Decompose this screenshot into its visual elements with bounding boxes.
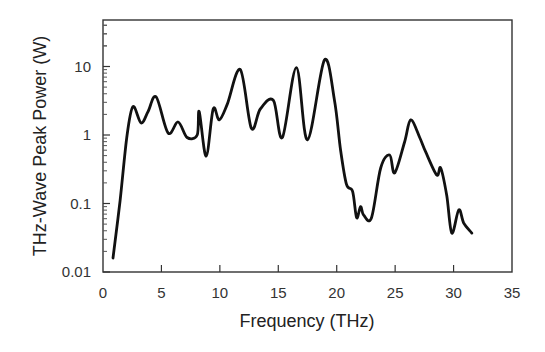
x-tick-label: 5 [157, 284, 165, 301]
plot-frame [103, 20, 512, 272]
x-tick-label: 20 [328, 284, 345, 301]
x-axis-title: Frequency (THz) [239, 311, 374, 331]
y-tick-label: 0.1 [70, 195, 91, 212]
x-axis-ticks: 05101520253035 [99, 265, 521, 301]
x-tick-label: 30 [445, 284, 462, 301]
x-tick-label: 10 [212, 284, 229, 301]
data-series [113, 59, 472, 258]
y-tick-label: 10 [74, 58, 91, 75]
y-tick-label: 1 [83, 126, 91, 143]
chart: 0.010.1110 05101520253035 Frequency (THz… [0, 0, 545, 352]
x-tick-label: 35 [504, 284, 521, 301]
y-axis-title: THz-Wave Peak Power (W) [30, 36, 50, 256]
x-tick-label: 0 [99, 284, 107, 301]
power-spectrum-line [113, 59, 472, 258]
plot-border [103, 20, 512, 272]
x-tick-label: 15 [270, 284, 287, 301]
x-tick-label: 25 [387, 284, 404, 301]
y-tick-label: 0.01 [62, 263, 91, 280]
